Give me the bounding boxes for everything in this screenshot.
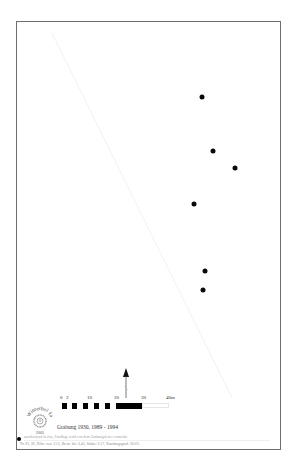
- find-point: [211, 149, 216, 154]
- scale-label: 20: [114, 395, 119, 401]
- scale-label: 10: [87, 395, 92, 401]
- scale-label: 30: [141, 395, 146, 401]
- scale-segment: [83, 403, 88, 409]
- svg-text:Winterbol 1a: Winterbol 1a: [25, 405, 55, 419]
- scale-segment-empty: [142, 403, 169, 408]
- map-frame: [16, 21, 281, 450]
- scale-segment: [105, 403, 110, 409]
- scale-segment: [62, 403, 67, 409]
- find-point: [200, 95, 205, 100]
- excavation-logo-icon: Winterbol 1a 2005 W: [24, 404, 56, 436]
- find-point: [192, 202, 197, 207]
- find-point: [233, 166, 238, 171]
- find-point: [201, 288, 206, 293]
- scale-label: 0: [60, 395, 63, 401]
- scale-segment: [116, 403, 142, 409]
- scale-label: 40m: [166, 395, 175, 401]
- scale-segment: [94, 403, 99, 409]
- legend-dot-icon: [17, 437, 21, 441]
- excavation-caption: Grabung 1930, 1989 - 1994: [57, 424, 118, 430]
- scale-segment: [72, 403, 77, 409]
- scale-label: 2: [66, 395, 69, 401]
- north-arrow-icon: [120, 368, 132, 398]
- find-point: [203, 269, 208, 274]
- legend-text-line-1: anscheinend in situ, Fundlage wird von d…: [24, 435, 127, 439]
- legend-text-line-2: Nr. 81, 82, Höhe von: 3.55, Breite bis: …: [20, 442, 139, 446]
